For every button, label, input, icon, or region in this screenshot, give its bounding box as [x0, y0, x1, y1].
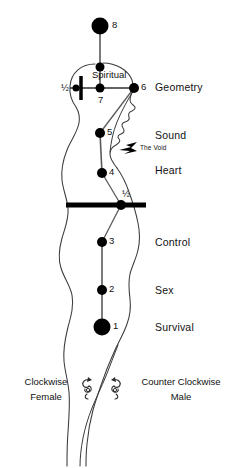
- spin-arrow-female: [83, 377, 92, 399]
- spin-arrow-male: [111, 377, 120, 399]
- label-control: Control: [155, 237, 190, 248]
- fraction-label-waist: ½: [122, 189, 130, 199]
- line-4-to-half-waist: [102, 173, 121, 205]
- body-front-contour: [86, 168, 140, 466]
- line-5-to-4: [100, 133, 102, 173]
- footer-right-line1: Counter Clockwise: [130, 377, 232, 387]
- node-4[interactable]: [97, 168, 107, 178]
- node-label-1: 1: [113, 321, 118, 331]
- node-label-8: 8: [112, 20, 117, 30]
- node-2[interactable]: [97, 285, 107, 295]
- label-geometry: Geometry: [155, 82, 203, 93]
- footer-left-line2: Female: [8, 392, 84, 402]
- footer-right-line2: Male: [130, 392, 232, 402]
- node-1[interactable]: [94, 319, 111, 336]
- node-8[interactable]: [92, 18, 109, 35]
- node-5[interactable]: [95, 128, 105, 138]
- node-label-5: 5: [107, 127, 112, 137]
- body-outline-group: [59, 63, 139, 466]
- node-half-head[interactable]: [73, 85, 80, 92]
- the-void-bolt-icon: [119, 142, 137, 154]
- body-back-contour: [59, 64, 95, 466]
- node-label-2: 2: [109, 284, 114, 294]
- node-3[interactable]: [97, 237, 107, 247]
- chakra-body-diagram: 8 7 6 5 4 3 2 1 ½ ½ Spiritual Geometry S…: [0, 0, 235, 468]
- line-6-to-5: [100, 88, 134, 133]
- label-survival: Survival: [155, 322, 194, 333]
- footer-left-line1: Clockwise: [8, 377, 84, 387]
- label-sound: Sound: [155, 130, 186, 141]
- node-label-4: 4: [109, 167, 114, 177]
- node-6[interactable]: [129, 83, 139, 93]
- label-the-void: The Void: [140, 145, 166, 152]
- node-label-7: 7: [98, 95, 103, 105]
- node-half-waist[interactable]: [116, 200, 126, 210]
- label-heart: Heart: [155, 165, 182, 176]
- node-label-6: 6: [141, 82, 146, 92]
- label-sex: Sex: [155, 285, 174, 296]
- body-inner-leg-contour: [80, 345, 118, 466]
- bar-group: [66, 76, 146, 205]
- node-label-3: 3: [109, 236, 114, 246]
- fraction-label-head: ½: [61, 83, 69, 93]
- label-spiritual: Spiritual: [92, 70, 126, 80]
- node-7[interactable]: [96, 84, 105, 93]
